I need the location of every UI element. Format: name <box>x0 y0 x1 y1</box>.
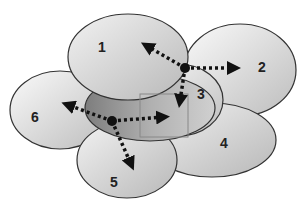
overlapping-cells-diagram: 1 2 3 4 5 6 <box>0 0 300 208</box>
node-a <box>180 63 190 73</box>
node-b <box>107 116 117 126</box>
label-1: 1 <box>98 39 106 55</box>
label-5: 5 <box>110 174 118 190</box>
cell-1 <box>68 14 188 100</box>
label-6: 6 <box>31 109 39 125</box>
label-2: 2 <box>258 59 266 75</box>
label-4: 4 <box>220 135 228 151</box>
label-3: 3 <box>197 86 205 102</box>
